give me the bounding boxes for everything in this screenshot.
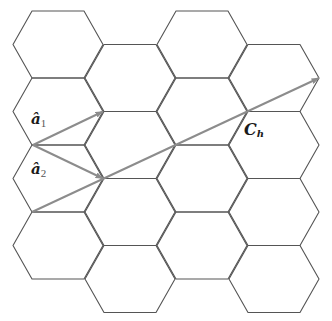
hexagon-cell xyxy=(229,246,319,313)
label-a2: â2 xyxy=(31,160,46,179)
label-chiral-vector: Ch xyxy=(244,120,264,139)
hexagon-cell xyxy=(13,145,103,212)
hexagon-cell xyxy=(229,45,319,112)
honeycomb-lattice-diagram: â1 â2 Ch xyxy=(0,0,332,321)
hexagon-cell xyxy=(85,179,175,246)
hexagon-cell xyxy=(157,212,247,279)
hexagon-cell xyxy=(229,179,319,246)
hexagon-cell xyxy=(85,112,175,179)
hexagon-cell xyxy=(13,11,103,78)
hexagon-cell xyxy=(157,78,247,145)
hexagon-cell xyxy=(13,212,103,279)
label-a1: â1 xyxy=(31,110,46,129)
hexagon-cell xyxy=(229,112,319,179)
hexagon-cell xyxy=(13,78,103,145)
hexagon-cell xyxy=(85,45,175,112)
hexagon-cell xyxy=(85,246,175,313)
hexagonal-lattice xyxy=(13,11,319,313)
hexagon-cell xyxy=(157,11,247,78)
hexagon-cell xyxy=(157,145,247,212)
